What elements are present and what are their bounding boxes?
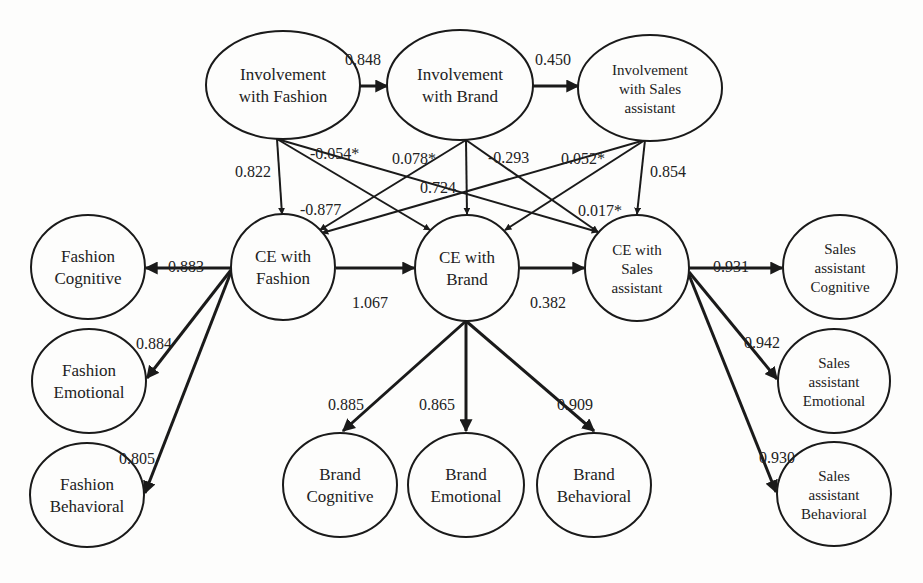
node-label: Sales [818,468,850,484]
node-label: assistant [809,374,861,390]
edge-coefficient-label: 0.854 [650,163,686,180]
node-inv_sales: Involvementwith Salesassistant [578,35,722,141]
node-label: Brand [573,465,615,484]
edge-coefficient-label: 0.930 [759,449,795,466]
node-label: with Brand [422,87,499,106]
node-label: Behavioral [801,506,867,522]
edge-coefficient-label: 0.805 [119,450,155,467]
node-label: Fashion [62,361,116,380]
node-label: Brand [445,465,487,484]
edge-inv_fashion-to-ce_fashion [277,139,282,214]
edge-coefficient-label: 0.078* [392,150,436,167]
edge-coefficient-label: -0.054* [310,145,359,162]
node-label: Fashion [60,475,114,494]
node-brand_cog: BrandCognitive [283,433,397,537]
node-ce_sales: CE withSalesassistant [585,215,689,321]
node-ellipse [32,329,146,433]
node-label: Brand [446,270,488,289]
node-label: Involvement [240,65,326,84]
node-label: assistant [809,487,861,503]
edge-coefficient-label: 0.931 [713,258,749,275]
edge-ce_brand-to-brand_cog [343,321,466,431]
node-ellipse [283,433,397,537]
node-ellipse [408,433,524,537]
node-brand_beh: BrandBehavioral [537,433,651,537]
node-label: assistant [612,280,664,296]
edge-ce_brand-to-brand_beh [466,321,594,431]
node-ce_fashion: CE withFashion [231,214,335,320]
edge-coefficient-label: 0.865 [419,396,455,413]
node-label: Involvement [612,62,689,78]
node-inv_fashion: Involvementwith Fashion [206,31,360,139]
edge-coefficient-label: 0.822 [235,163,271,180]
edge-coefficient-label: 0.052* [561,150,605,167]
node-label: CE with [612,242,662,258]
node-brand_emo: BrandEmotional [408,433,524,537]
edge-coefficient-label: 0.017* [578,202,622,219]
node-label: assistant [815,260,867,276]
edge-coefficient-label: -0.293 [488,149,529,166]
edge-ce_fashion-to-fashion_beh [145,272,231,493]
edge-coefficient-label: 0.883 [168,258,204,275]
node-label: with Fashion [239,87,328,106]
node-inv_brand: Involvementwith Brand [387,30,533,140]
edge-inv_sales-to-ce_sales [637,140,645,214]
node-ellipse [206,31,360,139]
node-label: Brand [319,465,361,484]
edge-coefficient-label: 0.909 [557,396,593,413]
node-label: Emotional [431,487,502,506]
sem-diagram: Involvementwith FashionInvolvementwith B… [0,0,923,583]
node-label: with Sales [619,81,681,97]
node-ellipse [537,433,651,537]
edge-coefficient-label: 0.382 [530,294,566,311]
edge-coefficient-label: 0.724 [420,179,456,196]
node-label: Involvement [417,65,503,84]
node-label: Emotional [54,383,125,402]
node-label: Sales [818,355,850,371]
edge-coefficient-label: 0.885 [328,396,364,413]
node-label: Sales [621,261,653,277]
node-ellipse [231,214,335,320]
node-fashion_emo: FashionEmotional [32,329,146,433]
node-ce_brand: CE withBrand [415,215,519,321]
node-label: CE with [255,247,312,266]
edge-coefficient-label: 0.848 [345,51,381,68]
edge-coefficient-label: 0.450 [535,51,571,68]
node-label: Cognitive [810,279,870,295]
node-sales_emo: SalesassistantEmotional [778,329,890,433]
edge-ce_fashion-to-fashion_emo [147,270,231,378]
edge-inv_brand-to-ce_brand [466,140,467,214]
node-fashion_cog: FashionCognitive [31,215,145,319]
node-label: Sales [824,241,856,257]
node-label: Fashion [256,269,310,288]
node-label: Behavioral [50,497,125,516]
node-label: Emotional [803,393,866,409]
edge-coefficient-label: 1.067 [352,294,388,311]
edge-ce_sales-to-sales_emo [689,272,777,379]
node-label: Cognitive [54,269,121,288]
node-sales_cog: SalesassistantCognitive [783,215,897,319]
edge-coefficient-label: 0.942 [744,334,780,351]
node-label: Fashion [61,247,115,266]
edge-coefficient-label: -0.877 [300,201,341,218]
node-ellipse [415,215,519,321]
edge-coefficient-label: 0.884 [136,335,172,352]
node-label: CE with [439,248,496,267]
node-label: assistant [625,100,677,116]
node-ellipse [387,30,533,140]
node-ellipse [31,215,145,319]
node-label: Cognitive [306,487,373,506]
node-label: Behavioral [557,487,632,506]
